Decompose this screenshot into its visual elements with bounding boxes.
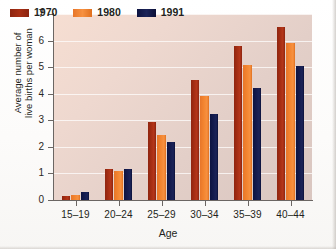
- bar-1970-35-39: [234, 46, 243, 200]
- legend-swatch-1991: [137, 9, 156, 17]
- legend-label-1991: 1991: [161, 7, 184, 18]
- x-tick-mark-2: [162, 201, 163, 206]
- x-tick-mark-1: [119, 201, 120, 206]
- y-tick-mark-0: [48, 200, 53, 201]
- bar-1970-30-34: [191, 80, 200, 200]
- y-tick-mark-5: [48, 67, 53, 68]
- legend-item-1991: 1991: [137, 7, 184, 18]
- x-axis-line: [53, 200, 313, 201]
- y-tick-label-1: 1: [22, 168, 44, 178]
- bar-1980-40-44: [286, 43, 295, 200]
- chart-screenshot: 01234567 15–1920–2425–2930–3435–3940–44 …: [0, 0, 336, 249]
- y-axis-title: Average number of live births per woman: [12, 3, 34, 143]
- legend-item-1970: 1970: [10, 7, 57, 18]
- x-tick-mark-0: [76, 201, 77, 206]
- x-tick-mark-5: [291, 201, 292, 206]
- x-axis-title: Age: [0, 227, 336, 239]
- bar-1991-25-29: [167, 142, 176, 200]
- legend-label-1980: 1980: [97, 7, 120, 18]
- bars-group: [54, 14, 312, 200]
- bar-1970-25-29: [148, 122, 157, 200]
- y-tick-label-0: 0: [22, 195, 44, 205]
- x-tick-mark-3: [205, 201, 206, 206]
- y-tick-mark-4: [48, 94, 53, 95]
- x-tick-mark-4: [248, 201, 249, 206]
- scan-edge-right: [332, 0, 336, 249]
- legend-swatch-1980: [73, 9, 92, 17]
- y-tick-mark-2: [48, 147, 53, 148]
- y-axis-title-line-1: Average number of: [12, 3, 23, 143]
- bar-1991-15-19: [81, 192, 90, 200]
- bar-1991-35-39: [253, 88, 262, 200]
- y-tick-mark-6: [48, 41, 53, 42]
- legend-item-1980: 1980: [73, 7, 120, 18]
- bar-1991-30-34: [210, 114, 219, 200]
- y-axis-line: [53, 13, 54, 201]
- bar-1991-20-24: [124, 169, 133, 200]
- legend-swatch-1970: [10, 9, 29, 17]
- chart-legend: 197019801991: [10, 7, 184, 18]
- plot-area: [54, 14, 312, 200]
- y-tick-mark-3: [48, 120, 53, 121]
- legend-label-1970: 1970: [34, 7, 57, 18]
- bar-1980-20-24: [114, 171, 123, 200]
- bar-1970-20-24: [105, 169, 114, 200]
- y-axis-title-line-2: live births per woman: [23, 3, 34, 143]
- x-tick-label-5: 40–44: [264, 209, 318, 220]
- y-tick-mark-1: [48, 173, 53, 174]
- bar-1980-35-39: [243, 65, 252, 201]
- bar-1980-25-29: [157, 135, 166, 200]
- bar-1980-30-34: [200, 96, 209, 200]
- bar-1970-40-44: [277, 27, 286, 200]
- y-tick-label-2: 2: [22, 142, 44, 152]
- bar-1991-40-44: [296, 66, 305, 200]
